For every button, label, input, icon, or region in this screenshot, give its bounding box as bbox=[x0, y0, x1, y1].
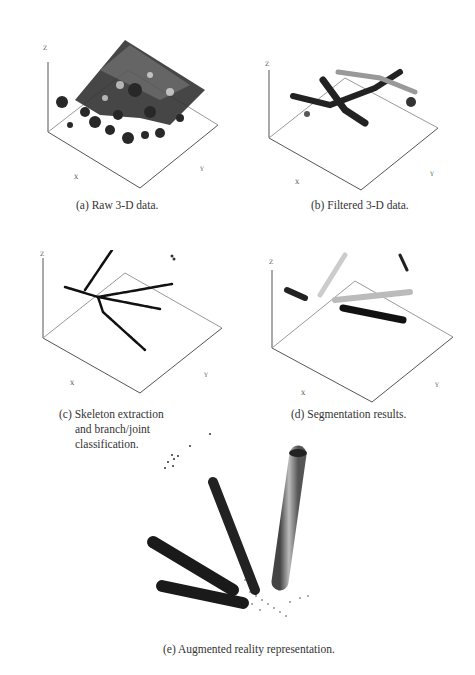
panel-e-augmented-reality bbox=[100, 420, 380, 645]
y-axis-label: Y bbox=[430, 170, 434, 177]
segmentation-results-plot bbox=[235, 250, 475, 410]
z-axis-label: Z bbox=[43, 44, 47, 51]
panel-a-raw-3d-plot: Z X Y bbox=[0, 30, 240, 200]
panel-d-segmentation-plot: Z X Y bbox=[235, 250, 475, 410]
x-axis-label: X bbox=[74, 173, 78, 180]
raw-3d-point-cloud-plot bbox=[0, 30, 240, 200]
filtered-3d-point-cloud-plot bbox=[235, 30, 475, 200]
z-axis-label: Z bbox=[269, 258, 273, 265]
augmented-reality-cylinders bbox=[100, 420, 380, 645]
x-axis-label: X bbox=[301, 389, 305, 396]
caption-e: (e) Augmented reality representation. bbox=[163, 643, 335, 655]
x-axis-label: X bbox=[70, 379, 74, 386]
x-axis-label: X bbox=[295, 178, 299, 185]
caption-a: (a) Raw 3-D data. bbox=[76, 199, 158, 211]
z-axis-label: Z bbox=[265, 60, 269, 67]
skeleton-extraction-plot bbox=[0, 250, 240, 410]
y-axis-label: Y bbox=[435, 381, 439, 388]
y-axis-label: Y bbox=[200, 165, 204, 172]
caption-b: (b) Filtered 3-D data. bbox=[311, 199, 409, 211]
panel-c-skeleton-plot: Z X Y bbox=[0, 250, 240, 410]
caption-d: (d) Segmentation results. bbox=[291, 408, 406, 420]
panel-b-filtered-3d-plot: Z X Y bbox=[235, 30, 475, 200]
y-axis-label: Y bbox=[204, 371, 208, 378]
z-axis-label: Z bbox=[40, 250, 44, 257]
